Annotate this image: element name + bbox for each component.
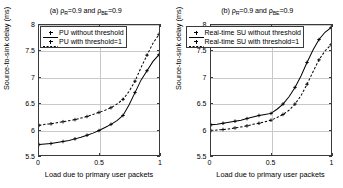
x-tick-label: 1	[330, 159, 334, 166]
data-point-marker	[97, 129, 101, 133]
x-tick-mark	[332, 24, 333, 27]
chart-b-x-axis-label: Load due to primary user packets	[210, 170, 332, 179]
data-point-marker	[97, 111, 101, 115]
x-tick-mark	[38, 153, 39, 156]
data-point-marker	[221, 122, 225, 126]
chart-b-title-end: =0.9	[279, 6, 293, 15]
chart-a-title-sub1: R	[64, 10, 68, 16]
chart-b-title-sub2: BE	[273, 10, 280, 16]
data-point-marker	[317, 58, 321, 62]
chart-a-title-sub2: BE	[101, 10, 108, 16]
x-tick-mark	[160, 24, 161, 27]
y-tick-mark	[329, 50, 332, 51]
chart-a-title-end: =0.9	[108, 6, 122, 15]
data-point-marker	[85, 115, 89, 119]
y-tick-label: 6.5	[25, 100, 35, 107]
chart-b-title-sub1: R	[236, 10, 240, 16]
legend-item[interactable]: Real-time SU without threshold	[188, 28, 302, 37]
legend-line-dashed-icon	[188, 37, 205, 46]
data-point-marker	[61, 120, 65, 124]
y-tick-mark	[157, 130, 160, 131]
y-tick-mark	[38, 77, 41, 78]
y-tick-label: 7.5	[25, 47, 35, 54]
data-point-marker	[305, 83, 309, 87]
x-tick-mark	[271, 153, 272, 156]
chart-a-title-prefix: (a)	[50, 6, 60, 15]
y-tick-mark	[38, 130, 41, 131]
y-tick-mark	[210, 156, 213, 157]
legend-label: Real-time SU without threshold	[205, 28, 302, 37]
x-tick-label: 0	[208, 159, 212, 166]
data-point-marker	[73, 137, 77, 141]
y-tick-label: 6	[31, 126, 35, 133]
data-point-marker	[73, 118, 77, 122]
x-tick-mark	[210, 153, 211, 156]
data-point-marker	[233, 126, 237, 130]
data-point-marker	[221, 128, 225, 132]
data-point-marker	[245, 117, 249, 121]
y-tick-mark	[38, 50, 41, 51]
data-point-marker	[245, 124, 249, 128]
chart-b-title: (b) ρR=0.9 and ρBE=0.9	[172, 6, 343, 15]
chart-panel-b: (b) ρR=0.9 and ρBE=0.9 Source-to-sink de…	[172, 0, 343, 188]
data-point-marker	[39, 143, 41, 147]
data-point-marker	[269, 118, 273, 122]
y-tick-mark	[157, 50, 160, 51]
x-tick-mark	[160, 153, 161, 156]
x-tick-mark	[99, 153, 100, 156]
x-tick-label: 0	[36, 159, 40, 166]
y-tick-mark	[210, 77, 213, 78]
data-point-marker	[211, 123, 213, 127]
figure-container: (a) ρR=0.9 and ρBE=0.9 Source-to-sink de…	[0, 0, 343, 188]
chart-panel-a: (a) ρR=0.9 and ρBE=0.9 Source-to-sink de…	[0, 0, 172, 188]
legend-label: Real-time SU with threshold=1	[205, 37, 300, 46]
data-point-marker	[305, 61, 309, 65]
chart-a-y-axis-label: Source-to-sink delay (ms)	[2, 7, 11, 90]
plus-marker-icon	[194, 40, 198, 44]
data-point-marker	[157, 33, 159, 37]
y-tick-label: 6	[203, 126, 207, 133]
legend-line-solid-icon	[42, 28, 59, 37]
legend-line-dashed-icon	[42, 37, 59, 46]
data-point-marker	[257, 122, 261, 126]
plus-marker-icon	[194, 31, 198, 35]
data-point-marker	[85, 133, 89, 137]
data-point-marker	[233, 119, 237, 123]
legend-item[interactable]: PU with threshold=1	[42, 37, 124, 46]
series-line	[211, 45, 331, 131]
y-tick-mark	[329, 103, 332, 104]
chart-b-title-prefix: (b)	[221, 6, 231, 15]
y-tick-label: 6.5	[197, 100, 207, 107]
chart-a-x-axis-label: Load due to primary user packets	[38, 170, 160, 179]
x-tick-mark	[332, 153, 333, 156]
chart-b-y-axis-label: Source-to-sink delay (ms)	[174, 7, 183, 90]
legend-line-solid-icon	[188, 28, 205, 37]
x-tick-label: 0.5	[94, 159, 104, 166]
x-tick-label: 0.5	[266, 159, 276, 166]
y-tick-mark	[157, 77, 160, 78]
y-tick-mark	[210, 50, 213, 51]
chart-b-legend: Real-time SU without threshold Real-time…	[186, 26, 305, 48]
chart-b-title-mid: =0.9 and	[239, 6, 268, 15]
y-tick-mark	[210, 103, 213, 104]
y-tick-mark	[38, 103, 41, 104]
legend-item[interactable]: PU without threshold	[42, 28, 124, 37]
data-point-marker	[61, 140, 65, 144]
data-point-marker	[329, 43, 331, 47]
data-point-marker	[121, 98, 125, 102]
y-tick-label: 5.5	[25, 153, 35, 160]
legend-item[interactable]: Real-time SU with threshold=1	[188, 37, 302, 46]
plus-marker-icon	[49, 40, 53, 44]
x-tick-label: 1	[158, 159, 162, 166]
data-point-marker	[39, 124, 41, 128]
y-tick-mark	[38, 156, 41, 157]
chart-a-legend: PU without threshold PU with threshold=1	[40, 26, 127, 48]
y-tick-label: 8	[31, 21, 35, 28]
y-tick-label: 5.5	[197, 153, 207, 160]
y-tick-mark	[210, 130, 213, 131]
chart-a-title: (a) ρR=0.9 and ρBE=0.9	[0, 6, 172, 15]
y-tick-label: 7	[31, 73, 35, 80]
data-point-marker	[145, 53, 149, 57]
plus-marker-icon	[49, 31, 53, 35]
y-tick-mark	[329, 130, 332, 131]
